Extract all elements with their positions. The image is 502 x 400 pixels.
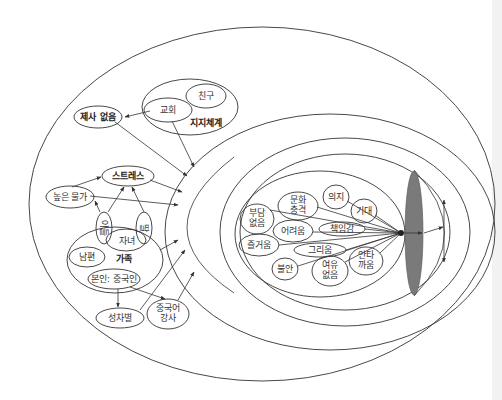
- culture-shock-label: 문화충격: [290, 195, 306, 215]
- longing-label: 그리움: [308, 245, 332, 255]
- frustration-label: 안타까움: [358, 250, 375, 270]
- no-leisure-label: 여유없음: [322, 259, 338, 280]
- chinese-teacher-label: 중국어강사: [156, 303, 180, 323]
- stress-label: 스트레스: [112, 170, 145, 181]
- anxiety-label: 불안: [277, 264, 293, 274]
- arrow-church-to-no-rites: [125, 111, 150, 117]
- family-label: 가족: [116, 253, 132, 264]
- husband-label: 남편: [79, 251, 95, 262]
- no-rites-label: 제사 없음: [80, 111, 115, 122]
- arrow-prices-to-center: [90, 196, 178, 205]
- enjoyment-label: 즐거움: [247, 240, 271, 250]
- arrow-family-to-center: [160, 240, 178, 250]
- high-prices-label: 높은 물가: [53, 192, 88, 202]
- outer-ellipse: [29, 27, 495, 381]
- daughter-label: 딸: [139, 224, 150, 232]
- outward-arrow: [424, 227, 443, 233]
- will-label: 의지: [328, 192, 344, 202]
- friend-label: 친구: [198, 91, 214, 101]
- son-label: 아들: [99, 220, 109, 236]
- no-burden-label: 부담없음: [249, 207, 265, 228]
- discrimination-label: 성차별: [108, 312, 132, 323]
- support-system-label: 지지체계: [190, 117, 222, 128]
- church-label: 교회: [160, 105, 176, 115]
- children-label: 자녀: [119, 236, 135, 246]
- arrow-daughter-to-stress: [132, 187, 144, 212]
- arrow-son-to-prices: [95, 201, 100, 212]
- focus-point: [398, 230, 404, 236]
- arrow-prices-to-stress: [72, 177, 101, 187]
- arrow-self-to-teacher: [130, 287, 165, 299]
- self-chinese-label: 본인: 중국인: [91, 274, 137, 284]
- difficulty-label: 어려움: [281, 226, 305, 236]
- concept-diagram: 친구 교회 지지체계 제사 없음 스트레스 높은 물가 아들 딸 자녀 남편 가…: [0, 0, 502, 400]
- arrow-stress-to-center: [150, 180, 182, 192]
